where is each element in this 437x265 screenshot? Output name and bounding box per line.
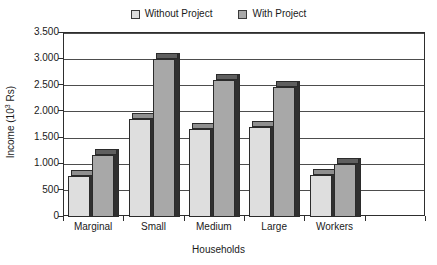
x-axis-tick xyxy=(425,216,426,221)
bar-large-with-project xyxy=(273,87,295,217)
bar-marginal-without-project xyxy=(68,176,90,217)
x-axis-tick-label-workers: Workers xyxy=(316,222,353,232)
bar-workers-with-project xyxy=(334,164,356,217)
legend-item-without-project: Without Project xyxy=(131,9,213,19)
x-axis-ticks xyxy=(63,216,425,221)
legend-swatch-icon-with-project xyxy=(238,10,247,19)
y-axis-tick-label: 0 xyxy=(19,211,59,221)
x-axis-tick xyxy=(184,216,185,221)
legend-swatch-icon-without-project xyxy=(131,10,140,19)
x-axis-tick xyxy=(244,216,245,221)
bar-small-with-project xyxy=(153,59,175,217)
x-axis-tick xyxy=(63,216,64,221)
x-axis-tick xyxy=(304,216,305,221)
bar-workers-without-project xyxy=(310,175,332,217)
chart-legend: Without Project With Project xyxy=(0,9,437,19)
y-axis-tick-labels: 05001.0001.5002.0002.5003.0003.500 xyxy=(14,32,59,216)
y-axis-tick-label: 500 xyxy=(19,185,59,195)
bar-medium-with-project xyxy=(213,80,235,217)
x-axis-tick xyxy=(123,216,124,221)
legend-item-with-project: With Project xyxy=(238,9,306,19)
y-axis-tick-label: 1.500 xyxy=(19,132,59,142)
bar-small-without-project xyxy=(129,119,151,217)
y-axis-tick-label: 1.000 xyxy=(19,158,59,168)
bar-marginal-with-project xyxy=(92,155,114,217)
y-axis-tick-label: 3.000 xyxy=(19,53,59,63)
x-axis-tick-label-large: Large xyxy=(261,222,287,232)
gridline xyxy=(64,111,424,112)
y-axis-title-exponent: 3 xyxy=(4,104,11,108)
gridline xyxy=(64,33,424,34)
y-axis-tick-label: 3.500 xyxy=(19,27,59,37)
bar-medium-without-project xyxy=(189,129,211,217)
x-axis-tick xyxy=(365,216,366,221)
gridline xyxy=(64,59,424,60)
x-axis-tick-label-small: Small xyxy=(141,222,166,232)
gridline xyxy=(64,85,424,86)
x-axis-tick-labels: MarginalSmallMediumLargeWorkers xyxy=(63,222,425,238)
y-axis-tick-label: 2.500 xyxy=(19,80,59,90)
legend-label-without-project: Without Project xyxy=(145,9,213,19)
x-axis-tick-label-marginal: Marginal xyxy=(74,222,112,232)
plot-area xyxy=(63,32,425,216)
y-axis-tick-label: 2.000 xyxy=(19,106,59,116)
gridline xyxy=(64,138,424,139)
x-axis-title: Households xyxy=(0,244,437,255)
bar-chart: Without Project With Project Income (103… xyxy=(0,0,437,265)
bar-large-without-project xyxy=(249,127,271,217)
legend-label-with-project: With Project xyxy=(252,9,306,19)
x-axis-tick-label-medium: Medium xyxy=(196,222,232,232)
